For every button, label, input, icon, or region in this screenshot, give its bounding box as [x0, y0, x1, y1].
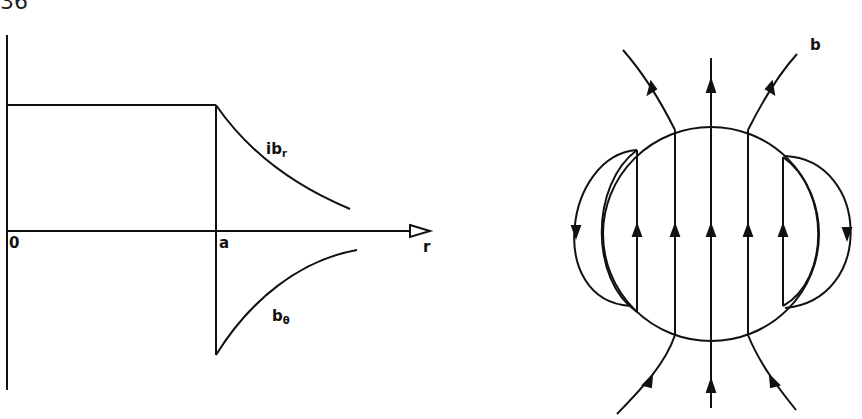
field-line-bottom-left [617, 335, 675, 414]
arrow-icon [770, 376, 779, 387]
ib-r-label-main: ib [266, 140, 282, 158]
arrow-up-icon [744, 225, 752, 236]
figure-canvas [0, 0, 862, 419]
r-axis-arrowhead-icon [410, 225, 430, 237]
ib-r-label: ibr [266, 142, 287, 159]
field-line-left-inner [602, 150, 637, 312]
b-theta-label-main: b [272, 307, 283, 325]
b-theta-curve [216, 250, 357, 355]
arrow-up-icon [779, 225, 787, 236]
r-axis-label: r [423, 240, 430, 255]
b-theta-label-sub: θ [283, 315, 290, 326]
arrow-up-icon [707, 225, 715, 236]
b-theta-label: bθ [272, 309, 290, 326]
arrow-icon [766, 82, 774, 94]
radius-a-label: a [219, 236, 229, 251]
arrow-up-icon [707, 80, 715, 92]
ib-r-label-sub: r [282, 148, 287, 159]
arrow-up-icon [707, 380, 715, 392]
field-line-bottom-right [748, 335, 796, 410]
arrow-up-icon [633, 225, 641, 236]
arrow-icon [643, 376, 652, 387]
right-diagram [572, 50, 851, 414]
origin-label: 0 [9, 236, 19, 251]
field-b-label: b [810, 38, 821, 53]
field-line-right-inner [783, 157, 818, 306]
left-graph [7, 35, 430, 390]
arrow-up-icon [671, 225, 679, 236]
field-line-left-outer [574, 150, 637, 306]
